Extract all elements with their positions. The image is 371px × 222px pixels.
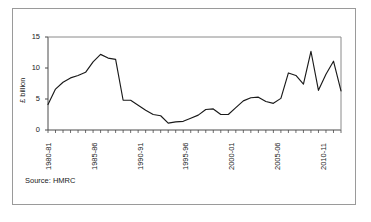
y-tick-label: 5	[24, 94, 40, 103]
source-note: Source: HMRC	[25, 176, 75, 185]
data-series-line	[48, 51, 341, 123]
y-tick-label: 10	[24, 63, 40, 72]
plot-area: £ billion 051015 1980-811985-861990-9119…	[0, 0, 371, 222]
x-tick-label: 1995-96	[181, 136, 190, 170]
x-tick-label: 2010-11	[319, 136, 328, 170]
chart-figure: £ billion 051015 1980-811985-861990-9119…	[0, 0, 371, 222]
y-tick-label: 0	[24, 125, 40, 134]
x-tick-label: 2005-06	[273, 136, 282, 170]
x-tick-label: 1990-91	[136, 136, 145, 170]
x-tick-label: 1985-86	[90, 136, 99, 170]
x-tick-label: 1980-81	[44, 136, 53, 170]
line-chart-svg	[0, 0, 371, 222]
x-tick-label: 2000-01	[227, 136, 236, 170]
y-tick-label: 15	[24, 32, 40, 41]
